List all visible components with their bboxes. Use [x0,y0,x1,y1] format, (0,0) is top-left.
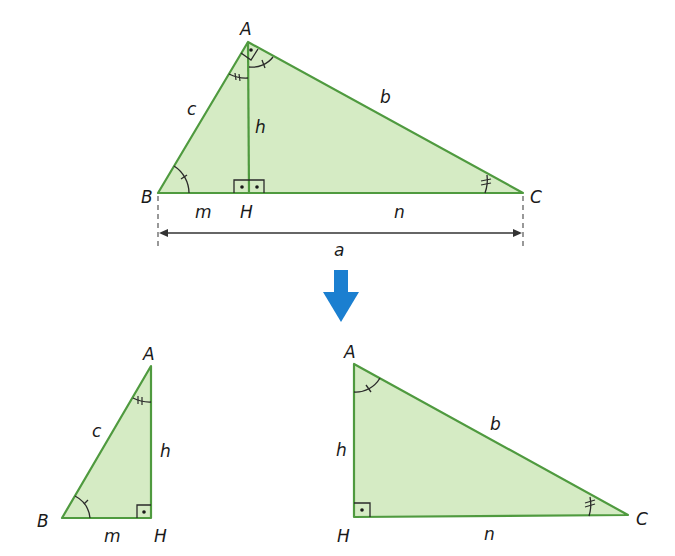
vertex-label-a-small: A [142,344,155,364]
side-label-h-right: h [336,440,347,460]
vertex-label-c: C [530,187,542,207]
side-label-c: c [187,99,197,119]
side-label-n: n [394,202,405,222]
arrow-down-icon [323,270,359,322]
vertex-label-b: B [141,187,153,207]
vertex-label-a-right: A [343,342,356,362]
vertex-label-h-right: H [337,526,350,546]
side-label-h: h [255,117,266,137]
vertex-label-h-small: H [154,526,167,546]
vertex-label-h: H [240,202,253,222]
small-triangle: A B H c h m [37,344,171,546]
side-label-b-right: b [490,414,501,434]
vertex-label-a: A [239,19,252,39]
side-label-a: a [334,240,344,260]
main-triangle: A B C H c h b m n a [141,19,542,260]
side-label-m-small: m [104,526,121,546]
side-label-b: b [380,87,391,107]
right-triangle: A H C h b n [336,342,648,546]
side-label-c-small: c [92,421,102,441]
side-label-m: m [195,202,212,222]
side-label-h-small: h [160,441,171,461]
similar-triangles-diagram: A B C H c h b m n a A B H c h [0,0,675,556]
vertex-label-c-right: C [636,509,648,529]
side-label-n-right: n [484,524,495,544]
altitude-line [248,42,249,193]
vertex-label-b-small: B [37,511,49,531]
